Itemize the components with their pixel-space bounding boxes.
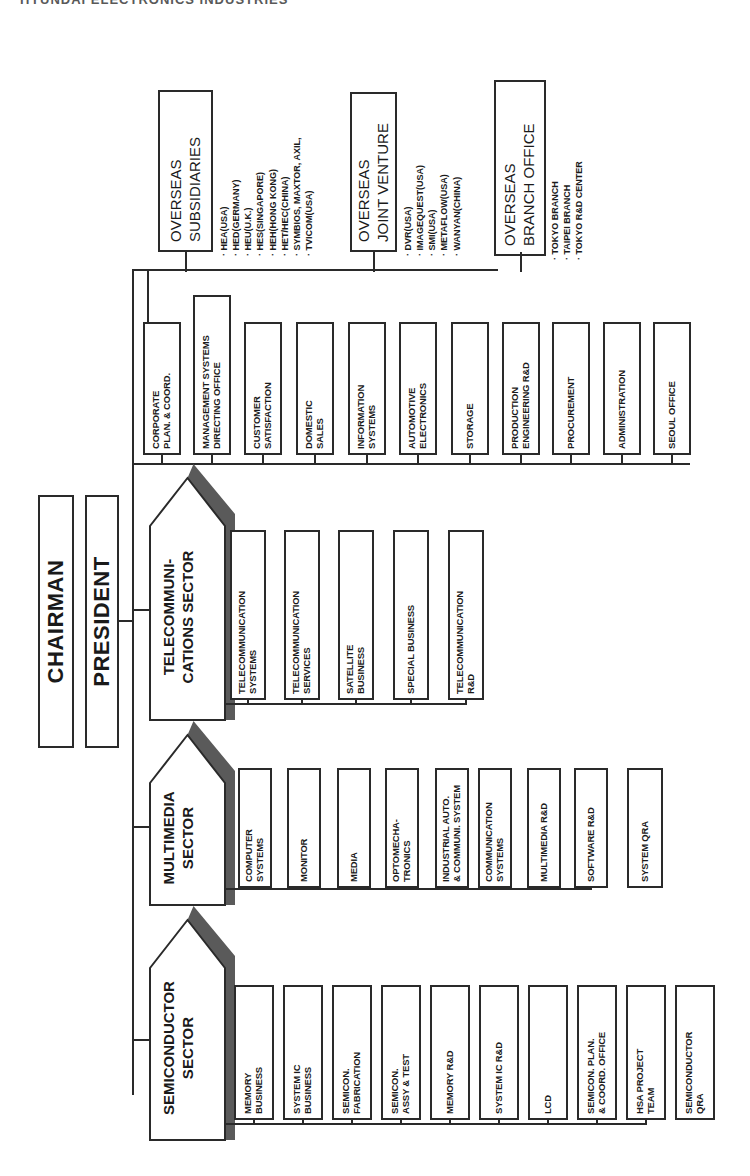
overseas-list-item: SMI(USA)	[426, 86, 438, 256]
president-connector	[119, 620, 133, 622]
overseas-list-item: HEA(USA)	[218, 86, 230, 256]
overseas-joint-venture-box: OVERSEAS JOINT VENTURE	[350, 92, 397, 252]
sector-qra-box: SEMICONDUCTOR QRA	[675, 985, 715, 1120]
staff-drop-line	[132, 269, 134, 271]
president-label: PRESIDENT	[89, 556, 114, 686]
sector-unit-rail	[225, 888, 591, 890]
staff-box-label: PROCUREMENT	[566, 377, 577, 449]
sector-unit-box-label: OPTOMECHA- TRONICS	[391, 819, 413, 882]
overseas-list-item: TOKYO R&D CENTER	[573, 90, 585, 260]
unit-connector	[353, 888, 355, 890]
overseas-list-item: METAFLOW(USA)	[438, 86, 450, 256]
staff-box: AUTOMOTIVE ELECTRONICS	[399, 322, 437, 455]
sector-unit-box: SATELLITE BUSINESS	[338, 530, 374, 700]
sector-unit-box-label: SEMICON. ASSY & TEST	[390, 1054, 412, 1114]
sector-unit-box: LCD	[528, 985, 568, 1120]
staff-box-label: SEOUL OFFICE	[667, 381, 678, 449]
sector-name: SEMICONDUCTOR SECTOR	[160, 964, 198, 1132]
sector-qra-box: SYSTEM QRA	[627, 768, 663, 888]
unit-connector	[449, 1120, 451, 1125]
unit-connector	[355, 700, 357, 705]
staff-box-label: PRODUCTION ENGINEERING R&D	[510, 362, 532, 449]
sector-unit-box: MEMORY BUSINESS	[234, 985, 274, 1120]
staff-box: INFORMATION SYSTEMS	[348, 322, 386, 455]
sector-unit-box: SEMICON. PLAN. & COORD. OFFICE	[577, 985, 617, 1120]
staff-connector	[417, 455, 419, 463]
overseas-branch-office-connector	[520, 252, 522, 272]
sector-unit-box: SYSTEM IC BUSINESS	[283, 985, 323, 1120]
staff-box: CORPORATE PLAN. & COORD.	[143, 322, 181, 455]
sector-unit-box: INDUSTRIAL AUTO. & COMMUNI. SYSTEM	[435, 768, 469, 888]
overseas-joint-venture-list: DVR(USA)IMAGEQUEST(USA)SMI(USA)METAFLOW(…	[402, 86, 463, 256]
staff-box: STORAGE	[451, 322, 489, 455]
sector-0-shape: TELECOMMUNI- CATIONS SECTOR	[150, 458, 235, 720]
unit-connector	[410, 700, 412, 705]
overseas-list-item: HEH(HONG KONG)	[267, 86, 279, 256]
unit-connector	[351, 1120, 353, 1125]
sector-unit-box: MONITOR	[287, 768, 321, 888]
staff-box-label: MANAGEMENT SYSTEMS DIRECTING OFFICE	[201, 335, 223, 449]
overseas-list-item: HET/HEC(CHINA)	[279, 86, 291, 256]
staff-connector	[469, 455, 471, 463]
unit-connector	[301, 700, 303, 705]
spine-line	[132, 269, 134, 1095]
staff-box-label: CUSTOMER SATISFACTION	[252, 382, 274, 449]
sector-connector	[133, 609, 150, 611]
overseas-branch-office-list: TOKYO BRANCHTAIPEI BRANCHTOKYO R&D CENTE…	[549, 90, 585, 260]
overseas-subsidiaries-box: OVERSEAS SUBSIDIARIES	[158, 90, 213, 252]
staff-connector	[671, 455, 673, 463]
unit-connector	[247, 700, 249, 705]
staff-box: MANAGEMENT SYSTEMS DIRECTING OFFICE	[193, 295, 231, 455]
sector-unit-box: OPTOMECHA- TRONICS	[385, 768, 419, 888]
sector-unit-box: COMPUTER SYSTEMS	[238, 768, 272, 888]
sector-unit-box: COMMUNICATION SYSTEMS	[478, 768, 512, 888]
overseas-branch-office-box-label: OVERSEAS BRANCH OFFICE	[501, 123, 539, 246]
staff-connector	[314, 455, 316, 463]
sector-unit-box-label: MONITOR	[299, 839, 310, 882]
sector-unit-box: SEMICON. ASSY & TEST	[381, 985, 421, 1120]
sector-unit-box-label: SEMICON. FABRICATION	[341, 1052, 363, 1114]
sector-2-shape: SEMICONDUCTOR SECTOR	[150, 900, 235, 1140]
sector-unit-rail	[225, 1123, 646, 1125]
sector-unit-box-label: MEDIA	[349, 852, 360, 882]
sector-unit-box: SPECIAL BUSINESS	[393, 530, 429, 700]
sector-unit-box-label: TELECOMMUNICATION SERVICES	[291, 591, 313, 694]
unit-connector	[547, 1120, 549, 1125]
unit-connector	[596, 1120, 598, 1125]
sector-connector	[133, 826, 150, 828]
sector-unit-box-label: SOFTWARE R&D	[586, 807, 597, 882]
sector-unit-box-label: COMPUTER SYSTEMS	[244, 829, 266, 882]
overseas-list-item: DVR(USA)	[402, 86, 414, 256]
staff-connector	[621, 455, 623, 463]
overseas-list-item: IMAGEQUEST(USA)	[414, 86, 426, 256]
sector-unit-box: MEMORY R&D	[430, 985, 470, 1120]
unit-connector	[400, 1120, 402, 1125]
sector-unit-box-label: SPECIAL BUSINESS	[406, 605, 417, 694]
overseas-rail	[148, 269, 498, 271]
org-chart: CHAIRMAN PRESIDENT OVERSEAS SUBSIDIARIES…	[0, 0, 750, 1176]
sector-unit-box: SYSTEM IC R&D	[479, 985, 519, 1120]
sector-1-shape: MULTIMEDIA SECTOR	[150, 715, 235, 905]
staff-box-label: INFORMATION SYSTEMS	[356, 385, 378, 449]
overseas-subsidiaries-list: HEA(USA)HED(GERMANY)HEU(U.K.)HES(SINGAPO…	[218, 86, 315, 256]
staff-connector	[520, 455, 522, 463]
staff-box: CUSTOMER SATISFACTION	[244, 322, 282, 455]
overseas-subsidiaries-box-label: OVERSEAS SUBSIDIARIES	[167, 137, 205, 242]
sector-unit-box: SEMICON. FABRICATION	[332, 985, 372, 1120]
sector-unit-box-label: TELECOMMUNICATION SYSTEMS	[237, 591, 259, 694]
overseas-list-item: WANYAN(CHINA)	[451, 86, 463, 256]
sector-unit-box-label: LCD	[543, 1095, 554, 1114]
sector-qra-box-label: SYSTEM QRA	[640, 821, 651, 882]
overseas-list-item: HEU(U.K.)	[242, 86, 254, 256]
staff-box: PROCUREMENT	[552, 322, 590, 455]
sector-unit-box: HSA PROJECT TEAM	[626, 985, 666, 1120]
unit-connector	[465, 700, 467, 705]
sector-unit-box: TELECOMMUNICATION R&D	[448, 530, 484, 700]
sector-unit-box: TELECOMMUNICATION SERVICES	[284, 530, 320, 700]
unit-connector	[645, 1120, 647, 1125]
unit-connector	[303, 888, 305, 890]
sector-unit-box-label: COMMUNICATION SYSTEMS	[484, 802, 506, 882]
sector-unit-box: SOFTWARE R&D	[574, 768, 608, 888]
staff-box-label: DOMESTIC SALES	[304, 400, 326, 449]
overseas-list-item: HES(SINGAPORE)	[254, 86, 266, 256]
